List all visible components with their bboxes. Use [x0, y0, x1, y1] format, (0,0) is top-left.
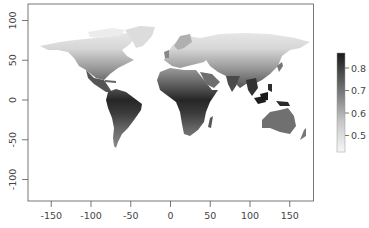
x-tick: 100 — [241, 201, 259, 221]
x-axis: -150 -100 -50 0 50 100 150 — [40, 201, 298, 221]
y-tick-label: 0 — [7, 97, 18, 103]
colorbar-legend: 0.8 0.7 0.6 0.5 — [337, 53, 366, 152]
y-tick-label: 100 — [7, 11, 18, 29]
colorbar-tick: 0.5 — [345, 130, 366, 141]
x-tick-label: 150 — [281, 210, 299, 221]
colorbar-tick: 0.6 — [345, 108, 366, 119]
colorbar-tick: 0.7 — [345, 85, 366, 96]
colorbar-tick-label: 0.6 — [351, 108, 366, 119]
x-tick: -100 — [80, 201, 102, 221]
x-tick-label: -150 — [40, 210, 62, 221]
colorbar-tick-label: 0.7 — [351, 85, 366, 96]
x-tick-label: -50 — [123, 210, 139, 221]
y-tick-label: 50 — [7, 54, 18, 66]
y-tick: 0 — [7, 97, 28, 103]
colorbar-tick-label: 0.8 — [351, 63, 366, 74]
plot-area — [28, 4, 314, 201]
colorbar — [337, 53, 345, 152]
y-axis: 100 50 0 -50 -100 — [7, 11, 28, 190]
x-tick-label: 100 — [241, 210, 259, 221]
x-tick: 0 — [167, 201, 173, 221]
map-chart: -150 -100 -50 0 50 100 150 100 50 0 -50 … — [0, 0, 369, 228]
plot-background — [28, 4, 314, 201]
colorbar-tick: 0.8 — [345, 63, 366, 74]
x-tick-label: 50 — [204, 210, 216, 221]
colorbar-tick-label: 0.5 — [351, 130, 366, 141]
y-tick: -50 — [7, 132, 28, 148]
x-tick-label: 0 — [167, 210, 173, 221]
y-tick-label: -50 — [7, 132, 18, 148]
y-tick: 100 — [7, 11, 28, 29]
x-tick: -150 — [40, 201, 62, 221]
x-tick: -50 — [123, 201, 139, 221]
x-tick-label: -100 — [80, 210, 102, 221]
y-tick: -100 — [7, 169, 28, 191]
y-tick: 50 — [7, 54, 28, 66]
x-tick: 50 — [204, 201, 216, 221]
y-tick-label: -100 — [7, 169, 18, 191]
x-tick: 150 — [281, 201, 299, 221]
